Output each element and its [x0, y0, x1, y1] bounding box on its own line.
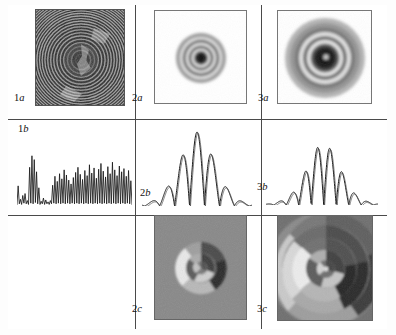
- panel-1a: 1a: [9, 6, 136, 120]
- panel-label-3c: 3c: [257, 303, 267, 314]
- panel-1a-image: [35, 9, 125, 106]
- panel-label-2b: 2b: [140, 187, 151, 198]
- panel-2a-image: [154, 10, 247, 104]
- panel-1c-empty: [9, 211, 136, 328]
- panel-3a: 3a: [254, 6, 379, 120]
- panel-1b-trace: [17, 141, 132, 207]
- panel-3b-trace: [266, 129, 378, 205]
- panel-label-1a: 1a: [14, 92, 25, 103]
- panel-3c: 3c: [254, 211, 379, 328]
- panel-2b: 2b: [128, 121, 253, 210]
- panel-2a: 2a: [128, 6, 253, 120]
- panel-3c-image: [277, 215, 373, 321]
- panel-label-2a: 2a: [132, 92, 143, 103]
- panel-label-3a: 3a: [258, 92, 269, 103]
- panel-2c-image: [154, 215, 247, 320]
- panel-2b-trace: [142, 124, 252, 206]
- figure-root: 1a: [0, 0, 396, 335]
- panel-3a-image: [277, 10, 372, 104]
- panel-1b: 1b: [9, 121, 136, 210]
- panel-label-2c: 2c: [132, 303, 142, 314]
- panel-label-3b: 3b: [257, 181, 268, 192]
- panel-label-1b: 1b: [18, 123, 29, 134]
- panel-2c: 2c: [128, 211, 253, 328]
- panel-3b: 3b: [254, 121, 379, 210]
